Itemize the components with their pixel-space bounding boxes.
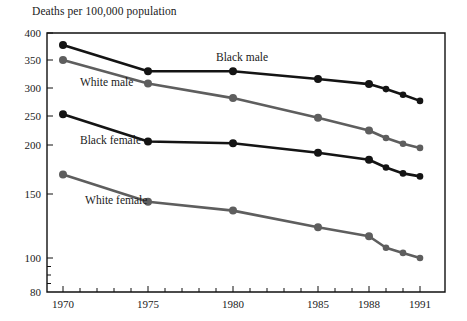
y-tick-label: 350	[25, 54, 42, 66]
y-tick-label: 80	[30, 286, 42, 298]
series-datapoint	[144, 67, 152, 75]
series-label: White female	[85, 194, 147, 206]
series-datapoint	[400, 141, 407, 148]
y-tick-label: 300	[25, 82, 42, 94]
series-datapoint	[144, 80, 152, 88]
series-datapoint	[417, 145, 424, 152]
series-datapoint	[229, 67, 237, 75]
series-datapoint	[229, 94, 237, 102]
series-datapoint	[314, 223, 322, 231]
series-datapoint	[144, 138, 152, 146]
y-axis-ticks	[47, 33, 53, 258]
series-datapoint	[383, 245, 390, 252]
x-tick-label: 1980	[222, 298, 245, 310]
series-datapoint	[229, 207, 237, 215]
series-datapoint	[400, 91, 407, 98]
y-tick-label: 100	[25, 252, 42, 264]
series-datapoint	[383, 164, 390, 171]
chart-figure: Deaths per 100,000 population 4003503002…	[0, 0, 467, 321]
series-datapoint	[229, 139, 237, 147]
y-tick-label: 250	[25, 110, 42, 122]
series-label: Black female	[80, 134, 141, 146]
series-datapoint	[400, 250, 407, 257]
x-tick-label: 1970	[52, 298, 75, 310]
series-datapoint	[365, 127, 373, 135]
y-tick-label: 150	[25, 188, 42, 200]
y-tick-label: 400	[25, 27, 42, 39]
series-line-white-female	[63, 174, 420, 258]
line-chart-canvas: 40035030025020015010080 1970197519801985…	[0, 0, 467, 321]
series-label: White male	[80, 76, 133, 88]
series-datapoint	[383, 86, 390, 93]
series-datapoint	[383, 135, 390, 142]
series-datapoint	[365, 156, 373, 164]
series-datapoint	[59, 41, 67, 49]
series-datapoint	[365, 232, 373, 240]
series-datapoint	[417, 98, 424, 105]
series-datapoint	[417, 173, 424, 180]
y-tick-label: 200	[25, 139, 42, 151]
x-tick-label: 1988	[358, 298, 381, 310]
x-axis-tick-labels: 197019751980198519881991	[52, 298, 431, 310]
series-datapoint	[59, 56, 67, 64]
series-datapoint	[417, 255, 424, 262]
x-tick-label: 1991	[409, 298, 431, 310]
x-tick-label: 1985	[307, 298, 330, 310]
series-datapoint	[400, 170, 407, 177]
series-datapoint	[59, 110, 67, 118]
series-datapoint	[314, 75, 322, 83]
series-datapoint	[314, 114, 322, 122]
series-datapoint	[365, 80, 373, 88]
series-datapoint	[314, 149, 322, 157]
x-tick-label: 1975	[137, 298, 160, 310]
series-label: Black male	[216, 51, 268, 63]
series-datapoint	[59, 170, 67, 178]
y-axis-tick-labels: 40035030025020015010080	[25, 27, 42, 298]
x-axis-ticks	[63, 286, 420, 292]
